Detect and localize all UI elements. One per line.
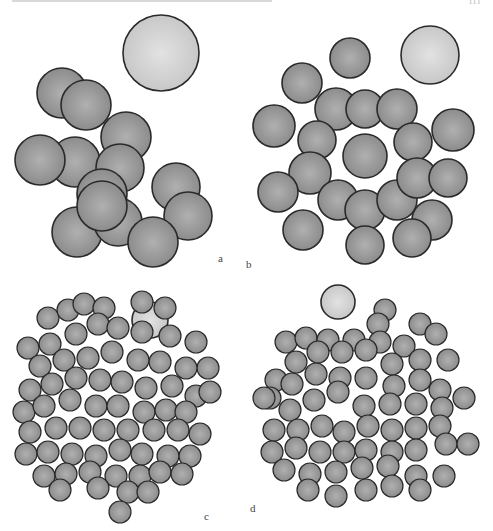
particle-sphere [197,357,219,379]
particle-sphere [65,323,87,345]
particle-sphere [87,477,109,499]
particle-sphere [69,417,91,439]
particle-sphere [189,423,211,445]
particle-sphere [409,349,431,371]
figure-panel-a: a [0,20,240,280]
particle-sphere [93,419,115,441]
particle-sphere [429,159,467,197]
particle-sphere [37,441,59,463]
particle-sphere [303,389,325,411]
particle-sphere [409,479,431,501]
particle-sphere [149,351,171,373]
particle-sphere [253,105,295,147]
particle-sphere [185,331,207,353]
particle-sphere [15,443,37,465]
particle-sphere [355,479,377,501]
particle-sphere [405,417,427,439]
panel-label-c: c [204,510,209,522]
particle-sphere [307,341,329,363]
particle-sphere [37,307,59,329]
particle-sphere [131,443,153,465]
particle-sphere [433,465,455,487]
particle-sphere [49,479,71,501]
particle-sphere [309,441,331,463]
particle-sphere [432,109,474,151]
particle-sphere [325,485,347,507]
particle-sphere [405,393,427,415]
particle-sphere [167,419,189,441]
page-number: 111 [468,0,481,6]
particle-sphere [61,80,111,130]
particle-sphere [87,313,109,335]
particle-sphere [381,475,403,497]
particle-sphere [65,367,87,389]
particle-sphere [33,395,55,417]
particle-sphere [143,419,165,441]
particle-sphere [330,38,370,78]
particle-cluster-a [0,20,240,280]
particle-sphere [381,353,403,375]
particle-sphere [325,461,347,483]
particle-cluster-d [240,280,493,531]
particle-sphere [355,339,377,361]
particle-sphere [394,123,432,161]
particle-sphere [117,419,139,441]
particle-sphere [343,134,387,178]
particle-sphere [258,172,298,212]
particle-sphere [109,439,131,461]
particle-sphere [175,357,197,379]
panel-label-a: a [218,252,223,264]
particle-sphere [73,293,95,315]
particle-sphere [393,219,431,257]
particle-sphere [285,351,307,373]
particle-sphere [41,373,63,395]
figure-panel-c: c [0,280,240,531]
particle-sphere [131,291,153,313]
particle-sphere [283,210,323,250]
particle-sphere [437,349,459,371]
particle-sphere [281,373,303,395]
particle-sphere [327,381,349,403]
particle-sphere [279,399,301,421]
particle-sphere [161,375,183,397]
panel-label-d: d [250,502,256,514]
particle-sphere [311,415,333,437]
particle-sphere [405,439,427,461]
particle-sphere [357,415,379,437]
particle-sphere [355,367,377,389]
particle-sphere [435,433,457,455]
particle-sphere [155,399,177,421]
large-sphere [123,15,199,91]
particle-sphere [61,443,83,465]
particle-sphere [346,226,384,264]
panel-label-b: b [246,258,252,270]
particle-sphere [159,325,181,347]
large-sphere [321,285,355,319]
particle-sphere [128,217,178,267]
particle-sphere [137,481,159,503]
particle-sphere [305,363,327,385]
particle-sphere [77,347,99,369]
particle-sphere [45,417,67,439]
particle-sphere [263,419,285,441]
particle-sphere [127,349,149,371]
particle-sphere [351,457,373,479]
particle-cluster-b [240,20,493,280]
particle-sphere [101,341,123,363]
particle-sphere [131,321,153,343]
particle-sphere [117,481,139,503]
particle-sphere [154,297,176,319]
particle-sphere [253,387,275,409]
particle-cluster-c [0,280,240,531]
particle-sphere [13,401,35,423]
particle-sphere [333,441,355,463]
particle-sphere [273,459,295,481]
particle-sphere [149,461,171,483]
particle-sphere [425,323,447,345]
particle-sphere [171,463,193,485]
particle-sphere [453,387,475,409]
particle-sphere [85,395,107,417]
particle-sphere [377,455,399,477]
particle-sphere [77,181,127,231]
particle-sphere [199,381,221,403]
